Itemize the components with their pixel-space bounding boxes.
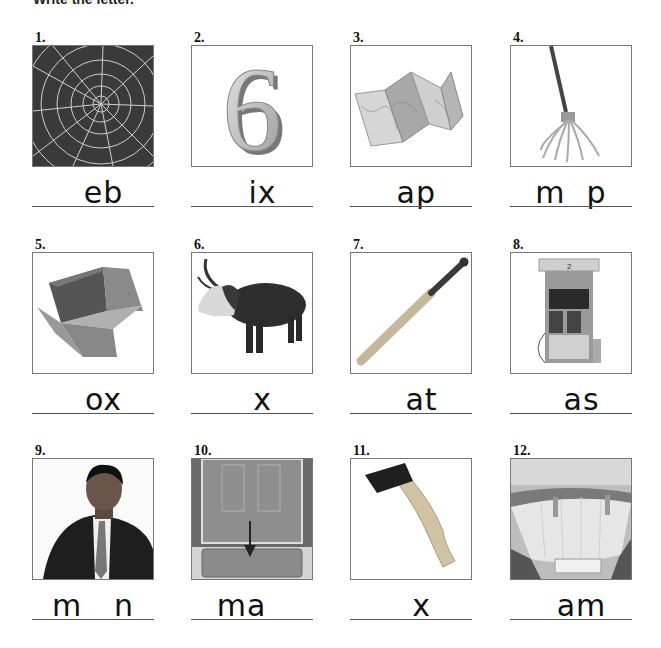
item-number: 12. xyxy=(513,443,531,459)
item-number: 11. xyxy=(353,443,370,459)
word-blank[interactable]: m p xyxy=(510,170,632,210)
svg-text:2: 2 xyxy=(567,262,572,271)
doormat-icon xyxy=(192,459,312,579)
mop-icon xyxy=(511,46,631,166)
gas-pump-picture: 2 xyxy=(510,252,632,374)
svg-text:6: 6 xyxy=(222,46,282,166)
mop-picture xyxy=(510,45,632,167)
write-line xyxy=(350,619,472,621)
instruction-heading: Write the letter. xyxy=(33,0,134,7)
bat-picture xyxy=(350,252,472,374)
number-six-picture: 6 6 xyxy=(191,45,313,167)
ax-picture xyxy=(350,458,472,580)
item-number: 9. xyxy=(35,443,46,459)
item-number: 1. xyxy=(35,30,46,46)
word-blank[interactable]: ix xyxy=(191,170,313,210)
item-number: 4. xyxy=(513,30,524,46)
item-number: 6. xyxy=(194,237,205,253)
ox-picture xyxy=(191,252,313,374)
map-picture xyxy=(350,45,472,167)
item-number: 10. xyxy=(194,443,212,459)
write-line xyxy=(191,413,313,415)
write-line xyxy=(510,413,632,415)
dam-picture xyxy=(510,458,632,580)
item-number: 7. xyxy=(353,237,364,253)
word-blank[interactable]: ap xyxy=(350,170,472,210)
box-picture xyxy=(32,252,154,374)
write-line xyxy=(32,619,154,621)
gas-pump-icon: 2 xyxy=(511,253,631,373)
write-line xyxy=(32,206,154,208)
word-blank[interactable]: x xyxy=(350,583,472,623)
doormat-picture xyxy=(191,458,313,580)
man-picture xyxy=(32,458,154,580)
item-number: 5. xyxy=(35,237,46,253)
man-icon xyxy=(33,459,153,579)
write-line xyxy=(191,619,313,621)
write-line xyxy=(350,413,472,415)
word-blank[interactable]: ma xyxy=(191,583,313,623)
word-blank[interactable]: as xyxy=(510,377,632,417)
box-icon xyxy=(33,253,153,373)
number-six-icon: 6 6 xyxy=(192,46,312,166)
dam-icon xyxy=(511,459,631,579)
write-line xyxy=(191,206,313,208)
word-blank[interactable]: m n xyxy=(32,583,154,623)
spider-web-icon xyxy=(33,46,153,166)
item-number: 3. xyxy=(353,30,364,46)
word-blank[interactable]: ox xyxy=(32,377,154,417)
item-number: 8. xyxy=(513,237,524,253)
word-blank[interactable]: eb xyxy=(32,170,154,210)
word-blank[interactable]: x xyxy=(191,377,313,417)
ax-icon xyxy=(351,459,471,579)
spider-web-picture xyxy=(32,45,154,167)
word-blank[interactable]: at xyxy=(350,377,472,417)
write-line xyxy=(510,206,632,208)
word-blank[interactable]: am xyxy=(510,583,632,623)
item-number: 2. xyxy=(194,30,205,46)
ox-icon xyxy=(192,253,312,373)
write-line xyxy=(32,413,154,415)
baseball-bat-icon xyxy=(351,253,471,373)
write-line xyxy=(350,206,472,208)
write-line xyxy=(510,619,632,621)
map-icon xyxy=(351,46,471,166)
